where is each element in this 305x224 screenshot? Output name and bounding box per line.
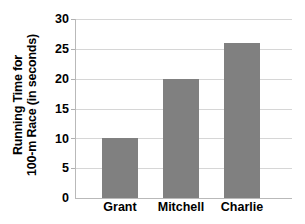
bar-charlie xyxy=(224,43,260,198)
y-tick-label-5: 5 xyxy=(62,162,69,175)
x-tick-label-grant: Grant xyxy=(103,201,136,214)
y-tick-label-30: 30 xyxy=(55,13,69,26)
x-axis-line xyxy=(75,198,292,199)
gridline-30 xyxy=(75,19,292,20)
bar-mitchell xyxy=(163,79,199,198)
y-axis-tick-labels: 30 25 20 15 10 5 0 xyxy=(48,0,72,224)
y-tick-label-20: 20 xyxy=(55,73,69,86)
plot-area xyxy=(75,19,292,198)
y-tick-label-25: 25 xyxy=(55,43,69,56)
y-tick-label-0: 0 xyxy=(62,192,69,205)
y-axis-title-line-1: Running Time for xyxy=(12,55,25,155)
y-axis-line xyxy=(75,19,76,199)
x-tick-label-mitchell: Mitchell xyxy=(158,201,205,214)
y-tick-label-10: 10 xyxy=(55,133,69,146)
x-axis-tick-labels: Grant Mitchell Charlie xyxy=(75,200,292,224)
y-axis-title: Running Time for 100-m Race (in seconds) xyxy=(0,0,50,210)
x-tick-label-charlie: Charlie xyxy=(221,201,263,214)
y-axis-title-line-2: 100-m Race (in seconds) xyxy=(26,34,39,176)
bar-grant xyxy=(102,138,138,198)
y-tick-label-15: 15 xyxy=(55,103,69,116)
bar-chart: Running Time for 100-m Race (in seconds)… xyxy=(0,0,305,224)
